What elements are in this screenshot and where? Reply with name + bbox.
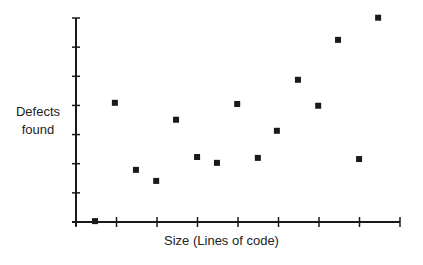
data-point-marker bbox=[234, 101, 240, 107]
data-point-marker bbox=[194, 154, 200, 160]
y-axis-label-line-2: found bbox=[8, 121, 68, 139]
data-point-marker bbox=[375, 15, 381, 21]
y-axis-label-line-1: Defects bbox=[8, 103, 68, 121]
data-point-marker bbox=[335, 37, 341, 43]
data-point-marker bbox=[133, 167, 139, 173]
data-points bbox=[92, 15, 381, 224]
data-point-marker bbox=[173, 117, 179, 123]
x-axis-label: Size (Lines of code) bbox=[0, 233, 423, 248]
data-point-marker bbox=[92, 218, 98, 224]
data-point-marker bbox=[153, 178, 159, 184]
axes bbox=[72, 18, 400, 227]
data-point-marker bbox=[112, 100, 118, 106]
data-point-marker bbox=[274, 128, 280, 134]
data-point-marker bbox=[214, 160, 220, 166]
data-point-marker bbox=[356, 156, 362, 162]
y-axis-label: Defects found bbox=[8, 103, 68, 139]
data-point-marker bbox=[295, 77, 301, 83]
data-point-marker bbox=[255, 155, 261, 161]
data-point-marker bbox=[315, 103, 321, 109]
